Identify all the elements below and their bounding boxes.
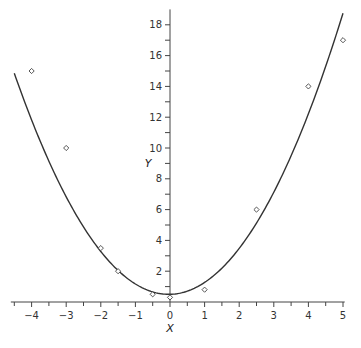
data-point-marker xyxy=(167,295,172,300)
x-tick-label: −4 xyxy=(24,310,39,321)
data-point-marker xyxy=(202,287,207,292)
x-tick-label: 2 xyxy=(236,310,242,321)
scatter-chart: −4−3−2−1012345 24681012141618 X Y xyxy=(0,0,361,348)
x-tick-label: −2 xyxy=(93,310,108,321)
data-point-marker xyxy=(29,68,34,73)
fitted-curve xyxy=(14,13,343,294)
y-tick-label: 18 xyxy=(149,19,162,30)
y-tick-label: 10 xyxy=(149,143,162,154)
x-tick-label: 0 xyxy=(167,310,173,321)
x-axis: −4−3−2−1012345 xyxy=(11,302,346,321)
x-tick-label: 1 xyxy=(201,310,207,321)
x-tick-label: 4 xyxy=(305,310,311,321)
data-point-marker xyxy=(306,84,311,89)
y-tick-label: 16 xyxy=(149,50,162,61)
x-axis-label: X xyxy=(165,322,174,335)
x-tick-label: −3 xyxy=(59,310,74,321)
x-tick-label: −1 xyxy=(128,310,143,321)
y-tick-label: 6 xyxy=(156,204,162,215)
data-point-marker xyxy=(254,207,259,212)
y-tick-label: 14 xyxy=(149,81,162,92)
y-tick-label: 12 xyxy=(149,112,162,123)
data-point-marker xyxy=(64,145,69,150)
y-tick-label: 4 xyxy=(156,235,162,246)
y-tick-label: 8 xyxy=(156,173,162,184)
data-point-marker xyxy=(340,38,345,43)
y-axis-label: Y xyxy=(145,157,153,170)
y-axis: 24681012141618 xyxy=(149,9,170,302)
x-tick-label: 3 xyxy=(271,310,277,321)
x-tick-label: 5 xyxy=(340,310,346,321)
y-tick-label: 2 xyxy=(156,266,162,277)
data-points xyxy=(29,38,346,300)
